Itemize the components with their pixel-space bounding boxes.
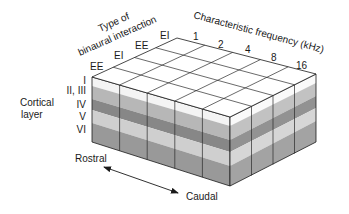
double-arrow-icon	[104, 167, 178, 193]
frequency-tick-2: 2	[218, 39, 224, 50]
layer-axis: Cortical layer I II, III IV V VI	[20, 75, 86, 135]
layer-axis-title-line2: layer	[21, 109, 43, 120]
caudal-label: Caudal	[186, 191, 218, 202]
layer-axis-title-line1: Cortical	[20, 97, 54, 108]
layer-label-VI: VI	[77, 124, 86, 135]
layer-label-V: V	[79, 111, 86, 122]
frequency-tick-8: 8	[271, 52, 277, 63]
binaural-tick-3: EE	[135, 40, 149, 51]
cortical-column-diagram: Type of binaural interaction EE EI EE EI…	[0, 0, 349, 214]
layer-label-II-III: II, III	[67, 85, 86, 96]
binaural-tick-1: EE	[90, 61, 104, 72]
frequency-tick-4: 4	[245, 44, 251, 55]
frequency-tick-16: 16	[296, 60, 308, 71]
frequency-tick-1: 1	[193, 31, 199, 42]
rostral-label: Rostral	[75, 153, 107, 164]
binaural-tick-2: EI	[114, 50, 123, 61]
layer-label-IV: IV	[77, 99, 87, 110]
binaural-tick-4: EI	[160, 30, 169, 41]
